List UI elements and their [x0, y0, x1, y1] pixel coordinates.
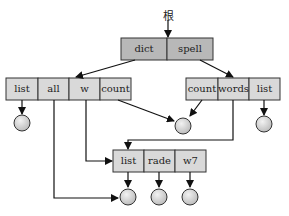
bottom-cell-list: list — [113, 150, 144, 172]
top-cell-dict: dict — [121, 38, 167, 60]
diagram-canvas — [0, 0, 289, 216]
right-cell-count: count — [186, 78, 218, 100]
left-cell-list: list — [6, 78, 38, 100]
left-cell-all: all — [38, 78, 69, 100]
left-cell-count: count — [100, 78, 131, 100]
right-cell-words: words — [218, 78, 249, 100]
left-cell-w: w — [69, 78, 100, 100]
right-cell-list: list — [249, 78, 280, 100]
bottom-cell-rade: rade — [144, 150, 175, 172]
top-cell-spell: spell — [167, 38, 213, 60]
root-label: 根 — [158, 7, 178, 23]
bottom-cell-w7: w7 — [175, 150, 206, 172]
